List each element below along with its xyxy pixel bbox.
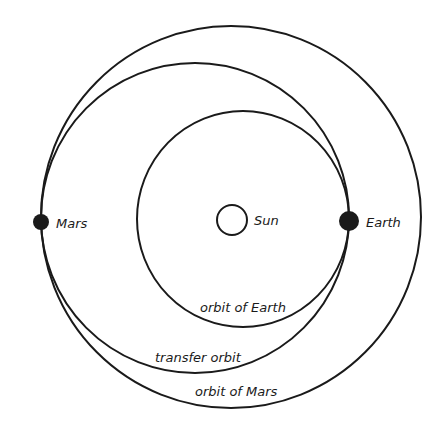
orbit-diagram: Sun Earth Mars orbit of Earth transfer o…	[0, 0, 445, 424]
mars-label: Mars	[56, 216, 88, 231]
sun-label: Sun	[254, 213, 279, 228]
sun-icon	[217, 205, 247, 235]
earth-icon	[339, 211, 359, 231]
transfer-orbit-label: transfer orbit	[155, 350, 242, 365]
mars-orbit-label: orbit of Mars	[195, 384, 278, 399]
mars-icon	[33, 214, 49, 230]
earth-label: Earth	[366, 215, 401, 230]
earth-orbit-label: orbit of Earth	[200, 300, 286, 315]
